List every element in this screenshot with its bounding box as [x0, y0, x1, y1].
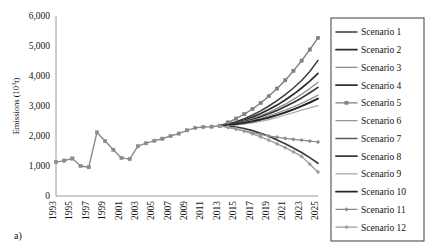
x-tick-label: 2007 [163, 201, 173, 220]
x-tick-label: 2023 [294, 201, 304, 220]
data-marker [226, 121, 229, 124]
x-tick-label: 1997 [81, 201, 91, 220]
legend-label: Scenario 3 [361, 63, 402, 73]
y-axis-tick-labels: 01,0002,0003,0004,0005,0006,000 [29, 11, 51, 201]
legend-label: Scenario 6 [361, 116, 402, 126]
legend-label: Scenario 4 [361, 81, 402, 91]
x-tick-label: 2015 [228, 201, 238, 220]
data-marker [308, 139, 312, 143]
data-marker [202, 125, 205, 128]
x-tick-label: 2003 [130, 201, 140, 220]
data-marker [185, 129, 188, 132]
legend-label: Scenario 8 [361, 152, 402, 162]
legend-label: Scenario 11 [361, 205, 406, 215]
data-marker [292, 69, 295, 72]
data-marker [87, 166, 90, 169]
y-tick-label: 4,000 [29, 71, 51, 81]
data-marker [243, 112, 246, 115]
data-marker [275, 87, 278, 90]
data-marker [112, 148, 115, 151]
x-tick-label: 2005 [146, 201, 156, 220]
y-axis-title: Emissions (103t) [10, 77, 21, 134]
x-tick-label: 2017 [245, 201, 255, 220]
y-tick-label: 1,000 [29, 161, 51, 171]
data-marker [308, 48, 311, 51]
data-marker [345, 101, 348, 104]
data-marker [120, 156, 123, 159]
y-tick-label: 2,000 [29, 131, 51, 141]
legend-label: Scenario 2 [361, 45, 402, 55]
data-marker [267, 94, 270, 97]
scenario-series-12 [218, 124, 320, 174]
data-marker [193, 126, 196, 129]
historical-series [54, 124, 221, 169]
x-tick-label: 2019 [261, 201, 271, 220]
data-marker [259, 101, 262, 104]
data-marker [251, 107, 254, 110]
panel-label: a) [14, 230, 22, 242]
y-tick-label: 3,000 [29, 101, 51, 111]
data-marker [144, 142, 147, 145]
series-lines [54, 36, 320, 174]
data-marker [316, 140, 320, 144]
data-marker [259, 135, 263, 139]
y-tick-label: 5,000 [29, 41, 51, 51]
x-tick-label: 1999 [97, 201, 107, 220]
figure-panel: Emissions (103t) 01,0002,0003,0004,0005,… [0, 0, 426, 251]
x-tick-label: 2021 [277, 201, 287, 220]
axis-frame [56, 16, 318, 196]
chart-legend: Scenario 1Scenario 2Scenario 3Scenario 4… [331, 18, 424, 241]
data-marker [54, 160, 57, 163]
data-marker [316, 36, 319, 39]
x-tick-label: 2013 [212, 201, 222, 220]
data-marker [95, 131, 98, 134]
data-marker [300, 59, 303, 62]
x-axis-tick-labels: 1993199519971999200120032005200720092011… [48, 201, 320, 220]
data-marker [292, 137, 296, 141]
legend-label: Scenario 7 [361, 134, 402, 144]
x-tick-label: 2001 [114, 201, 124, 220]
data-marker [79, 164, 82, 167]
legend-label: Scenario 5 [361, 98, 402, 108]
legend-label: Scenario 1 [361, 27, 402, 37]
panel-label-text: a) [14, 230, 22, 242]
data-marker [234, 117, 237, 120]
data-marker [210, 125, 213, 128]
legend-label: Scenario 10 [361, 187, 406, 197]
legend-label: Scenario 12 [361, 223, 406, 233]
emissions-line-chart: Emissions (103t) 01,0002,0003,0004,0005,… [0, 0, 426, 251]
data-marker [284, 79, 287, 82]
x-tick-label: 1993 [48, 201, 58, 220]
x-tick-label: 2025 [310, 201, 320, 220]
data-marker [153, 139, 156, 142]
data-marker [242, 129, 246, 133]
series-line [220, 126, 318, 172]
x-tick-label: 2011 [195, 201, 205, 220]
axis-lines [56, 16, 318, 196]
data-marker [300, 138, 304, 142]
data-marker [283, 137, 287, 141]
legend-label: Scenario 9 [361, 169, 402, 179]
y-tick-label: 0 [45, 191, 50, 201]
x-tick-label: 2009 [179, 201, 189, 220]
data-marker [71, 157, 74, 160]
y-axis-title-text: Emissions (103t) [10, 77, 21, 134]
data-marker [128, 157, 131, 160]
y-tick-label: 6,000 [29, 11, 51, 21]
data-marker [161, 137, 164, 140]
data-marker [177, 132, 180, 135]
data-marker [103, 139, 106, 142]
data-marker [62, 159, 65, 162]
data-marker [169, 134, 172, 137]
data-marker [136, 145, 139, 148]
data-marker [267, 138, 271, 142]
x-tick-label: 1995 [64, 201, 74, 220]
